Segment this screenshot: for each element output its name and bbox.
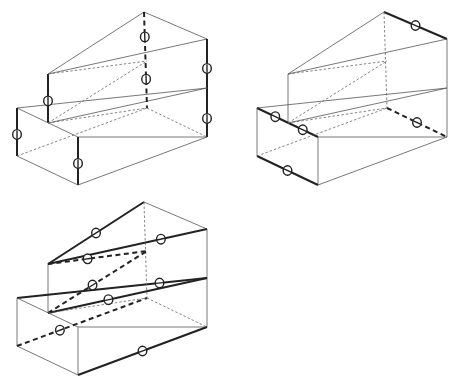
edge-hidden-back-bottom [147,298,207,327]
edge-box-top-back [257,88,447,108]
edge-top-left [288,12,384,74]
edge-hidden-vertical [144,12,147,108]
edge-box-bottom-front [78,137,207,185]
edge-mid-diagonal [48,88,207,123]
edge-mid-diagonal [48,278,207,313]
edge-hidden-mid [48,108,147,123]
panel-1 [13,12,212,185]
edge-top-back [144,202,207,229]
circle-marker-bar [156,283,164,284]
edge-box-bottom-left [17,156,78,185]
edge-top-left [48,12,144,74]
edge-hidden-mid [48,298,147,313]
edge-mid-diagonal [288,88,447,123]
edge-hidden-back-bottom [147,108,207,137]
figure-canvas [0,0,461,383]
panel-3 [17,202,207,375]
edge-hidden-vertical [384,12,387,108]
edge-box-bottom-left [17,346,78,375]
panel-2 [257,12,447,185]
edge-upper-diagonal [288,39,447,74]
edge-hidden-mid [288,108,387,123]
edge-box-top-left [17,298,78,327]
edge-box-top-left [257,108,318,137]
edge-upper-diagonal [48,39,207,74]
edge-top-back [144,12,207,39]
edge-box-bottom-front [318,137,447,185]
edge-box-top-back [17,278,207,298]
edge-upper-diagonal [48,229,207,264]
